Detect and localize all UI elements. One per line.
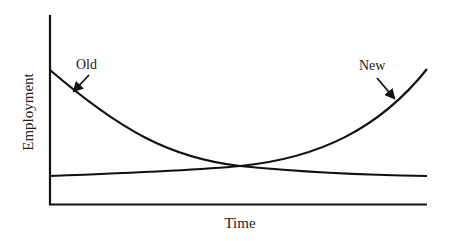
chart-canvas [0, 0, 452, 241]
new-curve [50, 69, 427, 176]
old-arrow [74, 75, 89, 91]
y-axis-label: Employment [20, 73, 37, 151]
old-curve-label: Old [76, 57, 97, 73]
x-axis-label: Time [224, 215, 255, 232]
new-arrow [377, 78, 394, 98]
new-curve-label: New [359, 58, 385, 74]
